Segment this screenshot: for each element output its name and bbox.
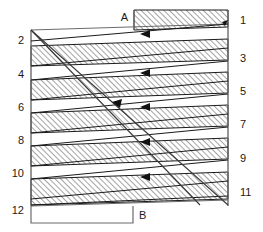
right-tick-label-5: 9 <box>240 152 246 164</box>
winding-diagram-svg: 2 4 6 8 10 12 1 3 5 7 9 11 A B <box>0 0 263 232</box>
right-tick-label-1: 1 <box>240 14 246 26</box>
hatched-band-1 <box>134 10 228 30</box>
right-tick-label-3: 5 <box>240 85 246 97</box>
left-tick-label-2: 4 <box>18 68 24 80</box>
right-tick-label-4: 7 <box>240 118 246 130</box>
left-tick-label-3: 6 <box>18 101 24 113</box>
left-tick-label-6: 12 <box>12 204 24 216</box>
terminal-label-a: A <box>121 11 129 23</box>
terminal-label-b: B <box>139 209 146 221</box>
left-tick-label-5: 10 <box>12 167 24 179</box>
left-tick-label-1: 2 <box>18 34 24 46</box>
left-tick-label-4: 8 <box>18 134 24 146</box>
right-tick-label-6: 11 <box>240 186 251 198</box>
right-tick-label-2: 3 <box>240 52 246 64</box>
technical-diagram: 2 4 6 8 10 12 1 3 5 7 9 11 A B <box>0 0 263 232</box>
